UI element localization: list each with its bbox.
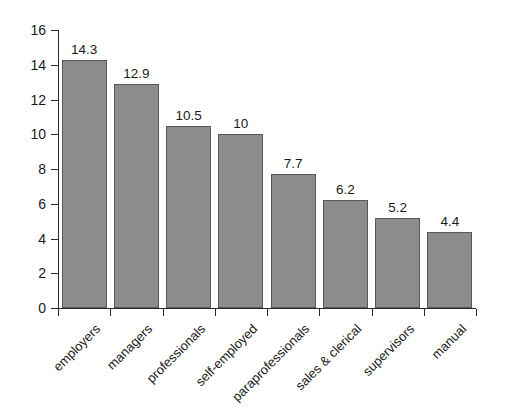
y-tick-label-0: 0 [38, 301, 46, 315]
y-tick-label-4: 4 [38, 232, 46, 246]
bar-professionals [166, 126, 211, 308]
x-axis-label-manual: manual [429, 322, 468, 361]
x-tick-origin [58, 309, 59, 316]
x-tick-4 [319, 309, 320, 316]
y-tick-16 [51, 30, 58, 31]
x-tick-7 [476, 309, 477, 316]
x-axis-label-supervisors: supervisors [360, 322, 416, 378]
y-tick-2 [51, 273, 58, 274]
bar-value-employers: 14.3 [71, 43, 97, 57]
x-tick-2 [215, 309, 216, 316]
bar-chart: 0246810121416 employersmanagersprofessio… [0, 0, 507, 420]
bar-value-managers: 12.9 [123, 67, 149, 81]
x-label-text: supervisors [360, 322, 416, 378]
bar-value-sales-clerical: 6.2 [336, 183, 355, 197]
y-tick-label-6: 6 [38, 197, 46, 211]
y-tick-4 [51, 239, 58, 240]
y-tick-label-10: 10 [30, 127, 46, 141]
y-tick-6 [51, 204, 58, 205]
y-tick-8 [51, 169, 58, 170]
x-tick-5 [372, 309, 373, 316]
bar-value-professionals: 10.5 [175, 109, 201, 123]
x-label-text: employers [51, 322, 103, 374]
plot-area [58, 30, 477, 308]
bar-value-manual: 4.4 [440, 215, 459, 229]
y-tick-label-12: 12 [30, 93, 46, 107]
y-tick-label-14: 14 [30, 58, 46, 72]
y-tick-10 [51, 134, 58, 135]
x-axis-label-employers: employers [51, 322, 103, 374]
y-tick-12 [51, 100, 58, 101]
bar-paraprofessionals [271, 174, 316, 308]
x-label-text: manual [429, 322, 468, 361]
y-tick-label-8: 8 [38, 162, 46, 176]
x-axis-label-managers: managers [105, 322, 155, 372]
bar-value-supervisors: 5.2 [388, 201, 407, 215]
x-tick-0 [110, 309, 111, 316]
y-tick-14 [51, 65, 58, 66]
bar-managers [114, 84, 159, 308]
bar-manual [427, 232, 472, 308]
bar-employers [62, 60, 107, 308]
bar-self-employed [218, 134, 263, 308]
y-tick-0 [51, 308, 58, 309]
bar-value-paraprofessionals: 7.7 [284, 157, 303, 171]
x-label-text: managers [105, 322, 155, 372]
bar-sales-clerical [323, 200, 368, 308]
y-tick-label-16: 16 [30, 23, 46, 37]
y-tick-label-2: 2 [38, 266, 46, 280]
bar-value-self-employed: 10 [233, 117, 248, 131]
x-tick-1 [163, 309, 164, 316]
y-axis-ticks: 0246810121416 [0, 0, 58, 309]
x-tick-6 [424, 309, 425, 316]
x-tick-3 [267, 309, 268, 316]
bar-supervisors [375, 218, 420, 308]
